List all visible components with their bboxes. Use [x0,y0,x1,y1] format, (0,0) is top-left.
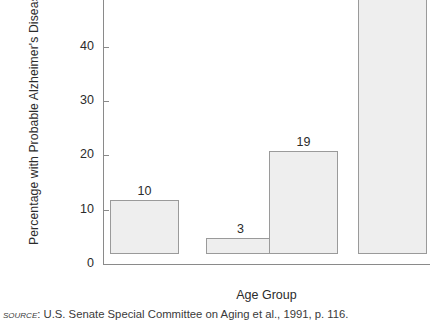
y-tick-label: 20 [80,147,94,161]
x-axis-title: Age Group [103,288,430,302]
source-label: Source [3,307,37,320]
bar-value-label: 3 [237,222,244,236]
bar[interactable]: 19 [269,151,338,254]
bar-value-label: 10 [138,184,152,198]
bar[interactable]: 10 [110,200,179,254]
y-tick-label: 40 [80,39,94,53]
y-tick-label: 0 [87,256,94,270]
source-separator: : [37,308,40,320]
y-axis-title: Percentage with Probable Alzheimer's Dis… [27,5,41,245]
y-tick-mark [103,264,109,265]
y-tick-label: 30 [80,93,94,107]
figure: Percentage with Probable Alzheimer's Dis… [0,0,438,325]
bar-value-label: 19 [297,135,311,149]
y-tick-label: 10 [80,202,94,216]
plot-area: 1065+365–741975–844785+ [103,0,430,264]
x-axis-line [103,264,430,265]
source-note: Source: U.S. Senate Special Committee on… [3,307,349,320]
bar[interactable]: 47 [358,0,427,254]
bar[interactable]: 3 [206,238,275,254]
source-text: U.S. Senate Special Committee on Aging e… [44,308,349,320]
